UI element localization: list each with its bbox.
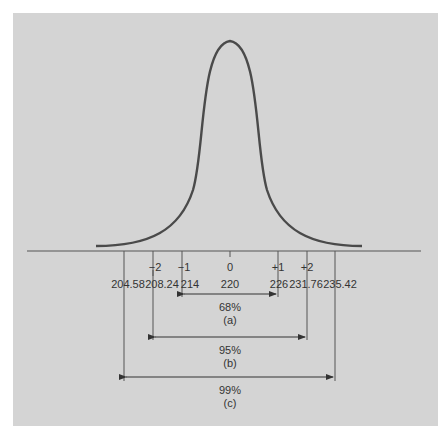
bell-curve-diagram xyxy=(0,0,447,439)
value-label: 220 xyxy=(221,278,239,290)
interval-tag-b: (b) xyxy=(223,357,236,369)
interval-percent-99: 99% xyxy=(219,384,241,396)
value-label: 208.24 xyxy=(145,278,179,290)
value-label: 204.58 xyxy=(111,278,145,290)
sigma-label: 0 xyxy=(227,261,233,273)
sigma-label: +1 xyxy=(272,261,285,273)
value-label: 226 xyxy=(270,278,288,290)
sigma-label: +2 xyxy=(301,261,314,273)
value-label: 235.42 xyxy=(323,278,357,290)
value-label: 231.76 xyxy=(289,278,323,290)
interval-percent-68: 68% xyxy=(219,301,241,313)
value-label: 214 xyxy=(181,278,199,290)
interval-tag-a: (a) xyxy=(223,314,236,326)
sigma-label: −1 xyxy=(178,261,191,273)
interval-tag-c: (c) xyxy=(224,397,237,409)
bell-curve xyxy=(96,41,362,246)
interval-percent-95: 95% xyxy=(219,344,241,356)
sigma-label: −2 xyxy=(149,261,162,273)
